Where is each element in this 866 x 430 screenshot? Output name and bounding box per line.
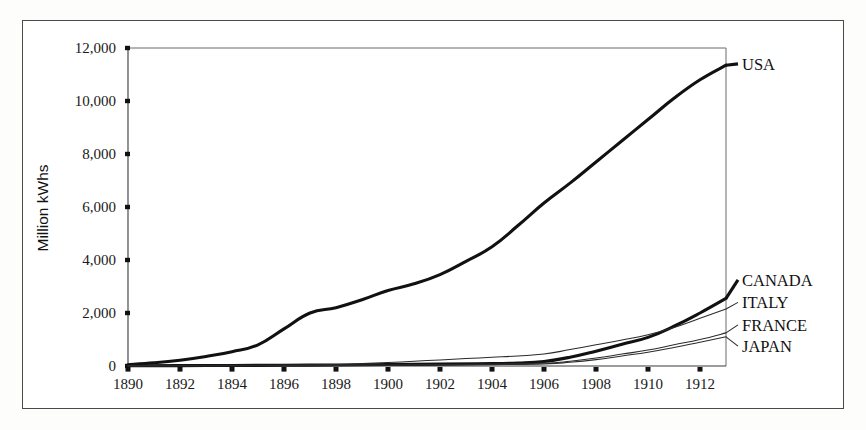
series-labels: USACANADAITALYFRANCEJAPAN bbox=[742, 55, 813, 356]
y-tick-marker bbox=[125, 205, 130, 209]
series-label-italy: ITALY bbox=[742, 293, 789, 312]
series-label-japan: JAPAN bbox=[742, 337, 792, 356]
series-leader-lines bbox=[726, 64, 738, 346]
x-tick-marker bbox=[334, 367, 339, 372]
y-tick-label: 8,000 bbox=[82, 146, 116, 162]
x-tick-label: 1908 bbox=[581, 376, 611, 392]
leader-line-japan bbox=[726, 337, 738, 346]
series-label-france: FRANCE bbox=[742, 316, 807, 335]
x-tick-marker bbox=[594, 367, 599, 372]
y-tick-marker bbox=[125, 99, 130, 103]
x-tick-label: 1906 bbox=[529, 376, 560, 392]
x-tick-marker bbox=[178, 367, 183, 372]
x-tick-marker bbox=[282, 367, 287, 372]
x-tick-label: 1910 bbox=[633, 376, 663, 392]
y-tick-label: 12,000 bbox=[75, 40, 116, 56]
series-line-usa bbox=[128, 65, 726, 364]
x-tick-label: 1894 bbox=[217, 376, 248, 392]
x-tick-label: 1902 bbox=[425, 376, 455, 392]
x-tick-marker bbox=[542, 367, 547, 372]
x-tick-label: 1896 bbox=[269, 376, 300, 392]
series-line-italy bbox=[128, 309, 726, 366]
leader-line-france bbox=[726, 325, 738, 333]
series-lines bbox=[128, 65, 726, 366]
x-tick-label: 1912 bbox=[685, 376, 715, 392]
x-tick-marker bbox=[646, 367, 651, 372]
x-tick-label: 1904 bbox=[477, 376, 508, 392]
x-tick-marker bbox=[438, 367, 443, 372]
x-tick-marker bbox=[386, 367, 391, 372]
plot-area-border bbox=[128, 48, 726, 366]
y-tick-label: 2,000 bbox=[82, 305, 116, 321]
x-tick-marker bbox=[230, 367, 235, 372]
y-tick-label: 10,000 bbox=[75, 93, 116, 109]
x-tick-label: 1892 bbox=[165, 376, 195, 392]
x-tick-marker bbox=[490, 367, 495, 372]
x-tick-marker bbox=[126, 367, 131, 372]
x-axis: 1890189218941896189819001902190419061908… bbox=[113, 367, 715, 392]
y-tick-marker bbox=[125, 46, 130, 50]
series-label-usa: USA bbox=[742, 55, 775, 74]
x-tick-label: 1890 bbox=[113, 376, 143, 392]
line-chart: 02,0004,0006,0008,00010,00012,000 189018… bbox=[0, 0, 866, 430]
y-axis: 02,0004,0006,0008,00010,00012,000 bbox=[75, 40, 130, 374]
series-label-canada: CANADA bbox=[742, 271, 813, 290]
y-tick-marker bbox=[125, 152, 130, 156]
y-tick-marker bbox=[125, 258, 130, 262]
leader-line-canada bbox=[726, 280, 738, 299]
y-tick-label: 4,000 bbox=[82, 252, 116, 268]
y-tick-label: 6,000 bbox=[82, 199, 116, 215]
chart-figure: 02,0004,0006,0008,00010,00012,000 189018… bbox=[0, 0, 866, 430]
y-axis-title: Million kWhs bbox=[34, 164, 51, 251]
leader-line-usa bbox=[726, 64, 738, 65]
y-tick-label: 0 bbox=[109, 358, 117, 374]
y-tick-marker bbox=[125, 311, 130, 315]
x-tick-label: 1898 bbox=[321, 376, 351, 392]
x-tick-marker bbox=[698, 367, 703, 372]
x-tick-label: 1900 bbox=[373, 376, 403, 392]
leader-line-italy bbox=[726, 302, 738, 309]
